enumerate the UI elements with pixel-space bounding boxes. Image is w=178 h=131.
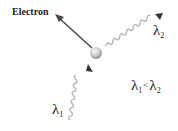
- scattered-wavelength-label: λ2: [153, 22, 164, 40]
- lambda-symbol: λ: [149, 77, 156, 93]
- electron-label: Electron: [12, 6, 48, 17]
- less-than-operator: <: [143, 80, 148, 90]
- scattered-arrowhead-icon: [155, 13, 163, 20]
- incident-wavelength-label: λ1: [52, 101, 63, 119]
- electron-arrow: [55, 14, 92, 48]
- lambda-subscript: 1: [59, 110, 63, 119]
- incident-arrowhead-icon: [86, 64, 93, 72]
- lambda-subscript: 2: [160, 31, 164, 40]
- lambda-subscript: 2: [157, 86, 161, 95]
- electron-sphere-icon: [90, 47, 102, 59]
- wavelength-relation: λ1<λ2: [131, 77, 161, 95]
- lambda-subscript: 1: [138, 86, 142, 95]
- incident-photon-wave: [59, 64, 93, 120]
- compton-diagram: [0, 0, 178, 131]
